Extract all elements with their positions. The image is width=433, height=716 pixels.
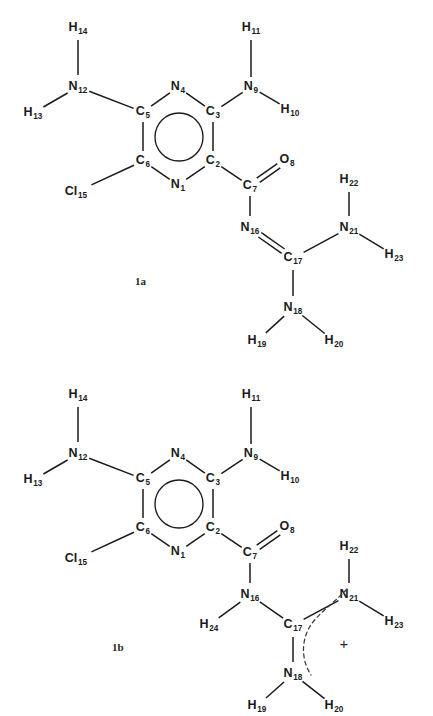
bond-C7-O8 [260,535,281,550]
structure-caption-1b: 1b [112,641,124,653]
atom-label-N9: N9 [244,79,259,95]
atom-element-symbol: C [284,617,293,631]
chemical-structure-sheet: N1C2C3N4C5C6C7O8N9H10H11N12H13H14Cl15N16… [0,0,433,716]
atom-label-N4: N4 [171,446,186,462]
atom-element-symbol: N [171,177,180,191]
atom-label-H13: H13 [24,472,43,488]
bond-N21-H23 [359,601,383,616]
atom-label-O8: O8 [280,519,295,535]
atom-label-H11: H11 [242,387,261,403]
bond-C2-C7 [221,534,241,548]
atom-label-H19: H19 [248,333,267,349]
atom-index-subscript: 1 [181,552,186,561]
bond-N4-C5 [151,460,170,473]
atom-element-symbol: N [171,544,180,558]
atom-label-C6: C6 [136,153,151,169]
atom-element-symbol: C [243,545,252,559]
atom-label-N18: N18 [284,300,303,316]
atom-index-subscript: 10 [290,110,300,119]
bond-N18-H19 [266,682,284,698]
atom-index-subscript: 2 [216,161,221,170]
atom-element-symbol: C [136,104,145,118]
atom-index-subscript: 14 [78,395,88,404]
atom-index-subscript: 11 [252,28,261,37]
atom-index-subscript: 19 [257,341,267,350]
bond-C17-N21 [304,234,339,253]
atom-label-C5: C5 [136,471,151,487]
bond-N12-H13 [43,93,67,107]
atom-label-N12: N12 [69,79,88,95]
atom-index-subscript: 4 [181,454,186,463]
atom-labels-group: N1C2C3N4C5C6C7O8N9H10H11N12H13H14Cl15N16… [24,20,404,349]
atom-element-symbol: Cl [65,184,78,198]
atom-element-symbol: H [200,617,209,631]
atom-element-symbol: H [242,20,251,34]
atom-element-symbol: C [206,104,215,118]
atom-index-subscript: 8 [290,160,295,169]
bonds-group [43,407,383,699]
atom-element-symbol: C [136,471,145,485]
atom-index-subscript: 17 [293,625,303,634]
atom-index-subscript: 16 [250,595,260,604]
atom-label-N16: N16 [241,587,260,603]
atom-label-N1: N1 [171,544,186,560]
atom-element-symbol: C [206,471,215,485]
bond-C3-N4 [186,93,205,106]
atom-label-H14: H14 [69,387,88,403]
bonds-group [43,40,383,333]
atom-label-H19: H19 [248,698,267,714]
bond-C5-N12 [89,458,133,475]
structure-1b: N1C2C3N4C5C6C7O8N9H10H11N12H13H14Cl15N16… [24,387,404,714]
bond-C3-N4 [186,460,205,473]
bond-N4-C5 [151,93,170,106]
atom-index-subscript: 6 [146,161,151,170]
atom-label-O8: O8 [280,152,295,168]
atom-label-H23: H23 [385,614,404,630]
bond-C17-N21 [304,601,339,620]
atom-label-C3: C3 [206,471,221,487]
atom-index-subscript: 20 [334,706,344,715]
bond-N18-H19 [266,316,284,333]
atom-label-H20: H20 [325,698,344,714]
atom-index-subscript: 14 [78,28,88,37]
bond-C3-N9 [221,459,242,473]
atom-label-H10: H10 [281,102,300,118]
atom-element-symbol: H [248,333,257,347]
atom-index-subscript: 13 [33,480,43,489]
bond-N16-C17 [260,602,283,618]
atom-label-C7: C7 [243,178,258,194]
atom-label-Cl15: Cl15 [65,184,88,200]
atom-index-subscript: 21 [349,595,359,604]
atom-index-subscript: 17 [293,258,303,267]
bond-C7-O8 [257,164,278,179]
atom-element-symbol: H [242,387,251,401]
bond-N1-C2 [186,167,205,180]
atom-index-subscript: 5 [146,112,151,121]
atom-element-symbol: H [385,247,394,261]
atom-label-N21: N21 [340,220,359,236]
atom-element-symbol: N [171,446,180,460]
atom-element-symbol: O [280,152,290,166]
atom-index-subscript: 10 [290,477,300,486]
bond-N9-H10 [260,92,280,104]
atom-index-subscript: 19 [257,706,267,715]
atom-index-subscript: 20 [334,341,344,350]
atom-element-symbol: Cl [65,551,78,565]
atom-index-subscript: 24 [209,625,219,634]
atom-index-subscript: 12 [78,454,88,463]
atom-label-Cl15: Cl15 [65,551,88,567]
bond-N12-H13 [43,460,67,474]
atom-element-symbol: H [325,333,334,347]
render-root: N1C2C3N4C5C6C7O8N9H10H11N12H13H14Cl15N16… [24,20,404,714]
atom-element-symbol: N [171,79,180,93]
atom-index-subscript: 9 [254,87,259,96]
atom-element-symbol: N [69,79,78,93]
bond-C5-N12 [89,91,133,108]
atom-element-symbol: H [248,698,257,712]
atom-index-subscript: 21 [349,228,359,237]
atom-index-subscript: 1 [181,185,186,194]
atom-label-H11: H11 [242,20,261,36]
atom-labels-group: N1C2C3N4C5C6C7O8N9H10H11N12H13H14Cl15N16… [24,387,404,714]
atom-index-subscript: 18 [293,308,303,317]
atom-element-symbol: O [280,519,290,533]
